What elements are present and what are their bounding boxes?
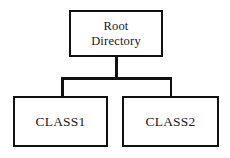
tree-node-class2-label: CLASS2	[146, 114, 196, 130]
tree-node-class1[interactable]: CLASS1	[13, 96, 108, 147]
directory-tree-diagram: Root Directory CLASS1 CLASS2	[0, 0, 230, 158]
connector-root-stem	[115, 55, 118, 79]
tree-node-root-directory[interactable]: Root Directory	[69, 10, 163, 57]
connector-sibling-bar	[61, 77, 172, 80]
connector-drop-to-class1	[61, 77, 64, 98]
tree-node-class2[interactable]: CLASS2	[122, 96, 219, 147]
tree-node-class1-label: CLASS1	[36, 114, 86, 130]
connector-drop-to-class2	[170, 77, 173, 98]
tree-node-root-directory-label: Root Directory	[91, 19, 141, 49]
